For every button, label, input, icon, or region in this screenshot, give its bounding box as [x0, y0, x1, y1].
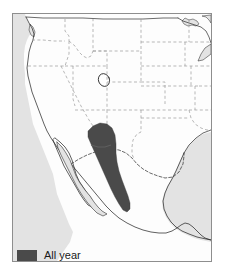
us-mexico-border: [71, 149, 184, 178]
legend-label-all-year: All year: [44, 250, 81, 261]
range-layer: [88, 123, 130, 212]
border-id-wy: [93, 51, 107, 66]
border-ok-tx-east: [189, 110, 211, 130]
border-nv-ca: [61, 66, 93, 126]
map-legend: All year: [17, 250, 81, 261]
great-lakes: [182, 18, 199, 26]
map-panel: [12, 13, 212, 262]
great-lakes-east: [202, 15, 211, 23]
map-graphic: [13, 14, 211, 261]
border-wa-id: [65, 19, 69, 41]
border-east-edge: [201, 42, 211, 44]
border-co-east: [141, 82, 165, 104]
border-wa-or: [32, 40, 65, 41]
border-id-mt: [69, 19, 93, 58]
atlantic-notch: [198, 44, 211, 61]
great-salt-lake: [96, 72, 111, 88]
pacific-ocean: [13, 14, 73, 261]
border-nm-tx: [132, 110, 141, 159]
legend-swatch-all-year: [17, 250, 37, 261]
border-nv-ut: [73, 66, 75, 106]
canada-us-border: [26, 17, 178, 19]
border-or-id: [61, 41, 69, 66]
range-polygon-all-year: [88, 123, 130, 212]
range-map-figure: All year: [0, 0, 227, 273]
